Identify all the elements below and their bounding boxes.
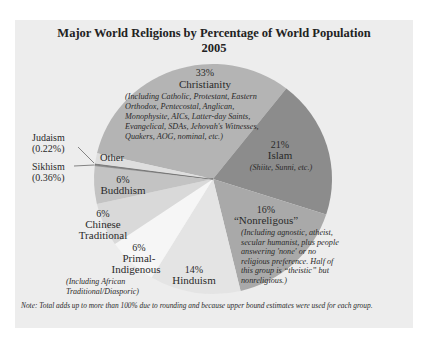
detail-line: (Including agnostic, atheist, bbox=[241, 228, 333, 237]
sikhism-label: Sikhism bbox=[32, 161, 65, 172]
detail-line: Monophysite, AICs, Latter-day Saints, bbox=[124, 112, 250, 121]
islam-label: Islam bbox=[268, 149, 293, 161]
detail-line: (Including African bbox=[66, 277, 125, 286]
detail-line: Quakers, AOG, nominal, etc.) bbox=[125, 132, 223, 141]
detail-line: (Including Catholic, Protestant, Eastern bbox=[125, 92, 257, 101]
hinduism-label: Hinduism bbox=[172, 274, 216, 286]
detail-line: Evangelical, SDAs, Jehovah's Witnesses, bbox=[124, 122, 259, 131]
islam-detail: (Shiite, Sunni, etc.) bbox=[250, 163, 313, 172]
detail-line: secular humanist, plus people bbox=[241, 238, 339, 247]
judaism-label: Judaism bbox=[32, 132, 65, 143]
nonreligious-detail: (Including agnostic, atheist,secular hum… bbox=[241, 228, 339, 285]
primal-detail: (Including AfricanTraditional/Diasporic) bbox=[66, 277, 139, 296]
detail-line: (Shiite, Sunni, etc.) bbox=[250, 163, 313, 172]
primal-label-2: Indigenous bbox=[112, 263, 161, 275]
judaism-pct: (0.22%) bbox=[32, 143, 65, 155]
chart-footnote: Note: Total adds up to more than 100% du… bbox=[21, 301, 373, 310]
detail-line: religious preference. Half of bbox=[241, 257, 335, 266]
nonreligious-label: “Nonreligous” bbox=[234, 214, 298, 226]
detail-line: answering 'none' or no bbox=[241, 247, 316, 256]
detail-line: Traditional/Diasporic) bbox=[66, 287, 139, 296]
judaism-leader-line bbox=[78, 147, 94, 163]
other-label: Other bbox=[100, 152, 124, 163]
detail-line: this group is “theistic” but bbox=[241, 266, 330, 275]
detail-line: Orthodox, Pentecostal, Anglican, bbox=[125, 102, 234, 111]
buddhism-label: Buddhism bbox=[100, 184, 146, 196]
detail-line: nonreligious.) bbox=[241, 276, 287, 285]
christianity-pct: 33% bbox=[196, 67, 214, 78]
pie-chart: 33% Christianity (Including Catholic, Pr… bbox=[0, 0, 427, 342]
sikhism-pct: (0.36%) bbox=[32, 172, 65, 184]
sikhism-leader-line bbox=[74, 165, 94, 166]
christianity-label: Christianity bbox=[179, 78, 231, 90]
chinese-label-2: Traditional bbox=[79, 229, 128, 241]
